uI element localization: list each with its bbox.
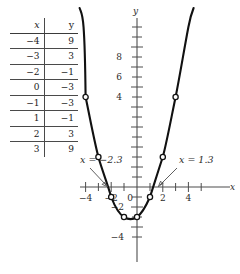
table-row: 3 9: [10, 142, 78, 157]
x-tick-label: 4: [186, 193, 192, 203]
parabola-plot: y x 8 6 4 −2 −4 −4 −2 0 2 4: [78, 0, 240, 274]
y-tick-label: 8: [116, 52, 122, 62]
y-tick-label: 6: [116, 72, 122, 82]
table-row: 0 −3: [10, 80, 78, 96]
data-point: [147, 194, 152, 199]
x-tick-label: −4: [79, 193, 93, 203]
data-point: [173, 94, 178, 99]
cell-x: −2: [10, 64, 44, 80]
x-axis-label: x: [230, 182, 235, 192]
cell-x: −1: [10, 95, 44, 111]
cell-x: 2: [10, 126, 44, 142]
cell-y: 9: [44, 33, 78, 49]
table-row: −3 3: [10, 49, 78, 65]
column-header-x: x: [10, 18, 44, 33]
left-root-label: x = −2.3: [80, 154, 122, 165]
y-tick-label: 4: [116, 92, 122, 102]
data-point: [109, 194, 114, 199]
data-point: [160, 154, 165, 159]
cell-x: −3: [10, 49, 44, 65]
table-row: −4 9: [10, 33, 78, 49]
table-row: −2 −1: [10, 64, 78, 80]
table-row: −1 −3: [10, 95, 78, 111]
cell-y: −1: [44, 64, 78, 80]
table-header-row: x y: [10, 18, 78, 33]
right-root-leader: [160, 168, 177, 185]
plot-svg: y x 8 6 4 −2 −4 −4 −2 0 2 4: [78, 0, 240, 274]
cell-y: 9: [44, 142, 78, 157]
table-row: 2 3: [10, 126, 78, 142]
cell-y: −3: [44, 80, 78, 96]
y-axis-label: y: [132, 6, 139, 16]
cell-y: −3: [44, 95, 78, 111]
cell-x: 0: [10, 80, 44, 96]
cell-y: −1: [44, 111, 78, 127]
value-table: x y −4 9 −3 3 −2 −1 0 −3 −1 −3: [10, 18, 78, 157]
cell-y: 3: [44, 126, 78, 142]
cell-x: −4: [10, 33, 44, 49]
x-tick-label: 2: [160, 193, 166, 203]
cell-x: 1: [10, 111, 44, 127]
right-root-label: x = 1.3: [179, 154, 213, 165]
figure-container: x y −4 9 −3 3 −2 −1 0 −3 −1 −3: [0, 0, 240, 274]
column-header-y: y: [44, 18, 78, 33]
data-point: [121, 214, 126, 219]
cell-y: 3: [44, 49, 78, 65]
table-row: 1 −1: [10, 111, 78, 127]
cell-x: 3: [10, 142, 44, 157]
y-tick-label-negative-4: −4: [111, 232, 125, 242]
table-body: −4 9 −3 3 −2 −1 0 −3 −1 −3 1 −1: [10, 33, 78, 157]
data-point: [134, 214, 139, 219]
x-tick-label: 0: [127, 193, 133, 203]
data-point: [83, 94, 88, 99]
